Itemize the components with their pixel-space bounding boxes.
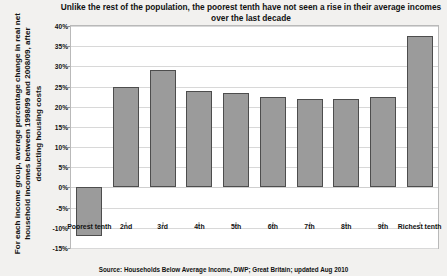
bar[interactable] (150, 70, 176, 187)
y-axis-tick-label: 40% (42, 23, 68, 30)
bar[interactable] (370, 97, 396, 188)
bar[interactable] (223, 93, 249, 188)
y-axis-ticks: 40%35%30%25%20%15%10%5%0%-5%-10%-15% (40, 25, 68, 249)
bar-column[interactable]: Poorest tenth (71, 26, 108, 248)
bar[interactable] (407, 36, 433, 187)
plot-area: Poorest tenth2nd3rd4th5th6th7th8th9thRic… (70, 25, 439, 249)
bar[interactable] (113, 87, 139, 188)
source-note: Source: Households Below Average Income,… (0, 266, 447, 273)
y-axis-tick-label: 30% (42, 63, 68, 70)
bar-column[interactable]: 9th (365, 26, 402, 248)
x-axis-category-label: Richest tenth (397, 222, 443, 232)
bar-column[interactable]: 5th (218, 26, 255, 248)
y-axis-tick-label: 35% (42, 43, 68, 50)
bar-column[interactable]: 3rd (144, 26, 181, 248)
y-axis-tick-label: -5% (42, 204, 68, 211)
y-axis-title-line-1: For each income group, average percentag… (13, 44, 22, 254)
bar-series: Poorest tenth2nd3rd4th5th6th7th8th9thRic… (71, 26, 438, 248)
y-axis-tick-label: 0% (42, 184, 68, 191)
y-axis-tick-label: -15% (42, 245, 68, 252)
bar-column[interactable]: 4th (181, 26, 218, 248)
y-axis-tick-label: 25% (42, 83, 68, 90)
bar-chart-figure: Unlike the rest of the population, the p… (0, 0, 447, 276)
y-axis-tick-label: 10% (42, 144, 68, 151)
bar[interactable] (297, 99, 323, 188)
bar-column[interactable]: 2nd (108, 26, 145, 248)
y-axis-tick-label: 5% (42, 164, 68, 171)
chart-title-line-1: Unlike the rest of the population, the p… (61, 2, 372, 12)
y-axis-tick-label: 20% (42, 103, 68, 110)
bar-column[interactable]: 7th (291, 26, 328, 248)
y-axis-tick-label: 15% (42, 123, 68, 130)
bar[interactable] (333, 99, 359, 188)
bar-column[interactable]: 8th (328, 26, 365, 248)
bar[interactable] (186, 91, 212, 188)
bar-column[interactable]: Richest tenth (401, 26, 438, 248)
y-axis-tick-label: -10% (42, 224, 68, 231)
bar-column[interactable]: 6th (255, 26, 292, 248)
gridline (71, 248, 438, 249)
bar[interactable] (260, 97, 286, 188)
chart-title: Unlike the rest of the population, the p… (60, 2, 442, 24)
